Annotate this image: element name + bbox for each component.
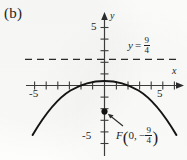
y-axis [101, 12, 108, 156]
focus-x-value: 0, [128, 129, 136, 141]
directrix-fraction: 94 [144, 36, 151, 55]
focus-close-paren: ) [152, 131, 158, 144]
focus-fraction: 94 [145, 126, 152, 145]
directrix-equation-label: y=94 [128, 36, 151, 55]
focus-coordinate-label: F(0,−94) [116, 126, 158, 145]
focus-point-marker [101, 109, 107, 115]
y-tick-label-5: 5 [91, 21, 97, 32]
panel-label: (b) [4, 6, 22, 21]
x-tick-label-5: 5 [157, 88, 163, 99]
directrix-variable: y [128, 39, 133, 51]
focus-denominator: 4 [145, 135, 152, 145]
directrix-denominator: 4 [144, 45, 151, 55]
focus-leader-arrow [108, 114, 123, 126]
directrix-numerator: 9 [144, 36, 151, 45]
y-tick-label-neg5: -5 [82, 130, 91, 141]
y-axis-label: y [110, 11, 114, 21]
x-axis-label: x [172, 66, 176, 76]
parabola-figure: (b) y x 5 -5 -5 5 y=94 F(0,−94) [0, 0, 187, 160]
focus-numerator: 9 [145, 126, 152, 135]
focus-minus-sign: − [139, 129, 145, 141]
focus-point-name: F [116, 129, 123, 141]
directrix-equals-sign: = [135, 39, 141, 51]
x-tick-label-neg5: -5 [29, 88, 38, 99]
